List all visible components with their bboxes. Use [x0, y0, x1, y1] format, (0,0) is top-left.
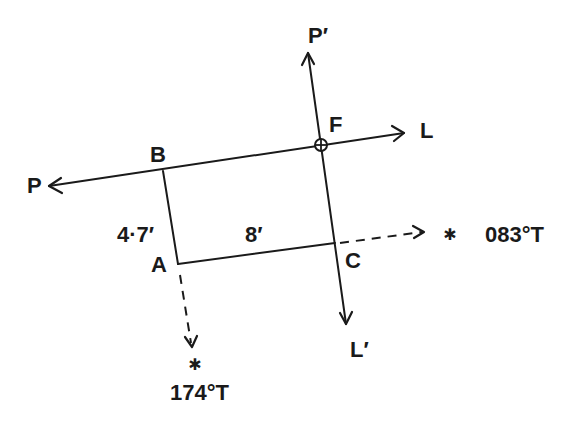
label-F: F — [329, 112, 342, 137]
label-B: B — [150, 142, 166, 167]
measurement-AB: 4·7′ — [117, 222, 154, 247]
fix-circle-icon — [315, 139, 327, 151]
star-east-icon: ✱ — [443, 226, 456, 243]
bearing-line-174 — [180, 275, 197, 347]
position-line-PL — [49, 126, 404, 193]
arrowhead-east-icon — [413, 226, 424, 238]
bearing-label-174: 174°T — [170, 380, 230, 405]
label-P: P — [27, 173, 42, 198]
transfer-rectangle — [163, 171, 335, 264]
label-A: A — [151, 252, 167, 277]
label-C: C — [345, 248, 361, 273]
label-L-prime: L′ — [350, 337, 369, 362]
label-P-prime: P′ — [308, 23, 328, 48]
side-AB — [163, 171, 178, 264]
bearing-label-083: 083°T — [485, 222, 545, 247]
bearing-line-083 — [340, 226, 424, 243]
star-south-icon: ✱ — [188, 356, 201, 373]
navigation-fix-diagram: ✱ ✱ P L P′ L′ F B A C 4·7′ 8′ 083°T 174°… — [0, 0, 586, 434]
label-L: L — [420, 118, 433, 143]
measurement-AC: 8′ — [245, 222, 263, 247]
position-line-P-prime-L-prime — [302, 53, 352, 324]
